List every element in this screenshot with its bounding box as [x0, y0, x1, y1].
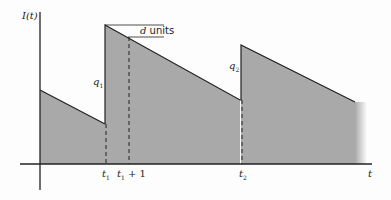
t1p1-suffix: + 1	[128, 168, 146, 179]
tick-t1-plus-1: t1 + 1	[117, 169, 146, 181]
q1-label: q1	[93, 77, 103, 89]
q2-label: q2	[229, 61, 239, 73]
area-segment-3	[241, 45, 355, 164]
area-segment-1	[40, 90, 105, 164]
t1p1-sub: 1	[121, 174, 125, 181]
area-fade	[355, 102, 367, 164]
y-axis-label: I(t)	[22, 11, 38, 21]
area-segment-2	[105, 25, 240, 164]
t2-sub: 2	[243, 174, 247, 181]
q1-sub: 1	[99, 82, 103, 89]
t1-sub: 1	[106, 174, 110, 181]
d-units-label: d units	[140, 26, 174, 36]
inventory-diagram	[0, 0, 391, 200]
tick-t1: t1	[102, 169, 110, 181]
d-var: d	[140, 25, 146, 36]
x-axis-label: t	[368, 169, 372, 179]
q2-sub: 2	[235, 66, 239, 73]
tick-t2: t2	[239, 169, 247, 181]
units-text: units	[150, 25, 175, 36]
